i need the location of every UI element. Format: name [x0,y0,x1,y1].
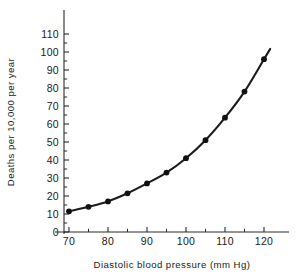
data-point [242,89,248,95]
data-point [222,115,228,121]
y-tick-label-50: 50 [47,136,59,148]
y-tick-label-110: 110 [41,28,59,40]
y-tick-label-30: 30 [47,172,59,184]
y-tick-label-20: 20 [47,190,59,202]
y-tick-label-100: 100 [41,46,59,58]
y-tick-label-60: 60 [47,118,59,130]
x-tick-label-90: 90 [141,235,153,247]
x-tick-label-110: 110 [216,235,234,247]
data-point [144,181,150,187]
data-point [203,137,209,143]
x-tick-label-80: 80 [102,235,114,247]
y-axis-title: Deaths per 10,000 per year [5,57,16,186]
data-point [164,170,170,176]
data-point [125,190,131,196]
x-axis-title: Diastolic blood pressure (mm Hg) [94,259,251,270]
x-tick-label-100: 100 [177,235,195,247]
x-tick-label-120: 120 [255,235,273,247]
y-tick-label-70: 70 [47,100,59,112]
data-point [261,56,267,62]
data-point [66,208,72,214]
chart-svg: 0102030405060708090100110 Deaths per 10,… [0,0,302,278]
y-tick-label-80: 80 [47,82,59,94]
data-point [183,155,189,161]
data-point [105,199,111,205]
chart-figure: 0102030405060708090100110 Deaths per 10,… [0,0,302,278]
data-point [86,204,92,210]
y-tick-label-10: 10 [47,208,59,220]
x-tick-label-70: 70 [63,235,75,247]
y-tick-label-40: 40 [47,154,59,166]
y-tick-label-90: 90 [47,64,59,76]
